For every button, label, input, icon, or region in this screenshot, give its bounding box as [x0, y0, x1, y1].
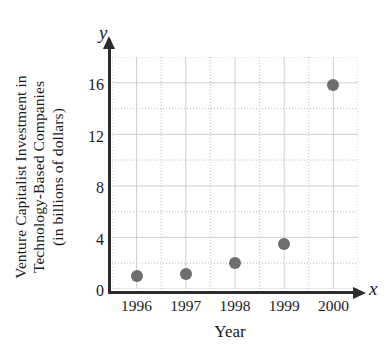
y-axis-title-line-1: Venture Capitalist Investment in — [12, 7, 30, 347]
y-tick-12: 12 — [74, 129, 104, 145]
data-point-1996 — [131, 270, 143, 282]
x-tick-1998: 1998 — [207, 298, 263, 314]
x-tick-1996: 1996 — [109, 298, 165, 314]
y-tick-8: 8 — [74, 180, 104, 196]
plot-area — [112, 57, 358, 289]
grid-lines — [112, 57, 358, 289]
x-axis-line — [108, 291, 356, 294]
x-axis-title: Year — [150, 322, 310, 342]
x-axis-variable-label: x — [369, 278, 377, 300]
data-point-1997 — [180, 268, 192, 280]
data-point-1998 — [229, 257, 241, 269]
y-tick-0: 0 — [74, 283, 104, 299]
x-tick-1999: 1999 — [256, 298, 312, 314]
x-tick-2000: 2000 — [305, 298, 361, 314]
data-point-2000 — [327, 79, 339, 91]
y-tick-16: 16 — [74, 77, 104, 93]
x-tick-1997: 1997 — [158, 298, 214, 314]
y-tick-4: 4 — [74, 232, 104, 248]
data-point-1999 — [278, 238, 290, 250]
x-axis-tick-labels: 1996 1997 1998 1999 2000 — [0, 298, 389, 322]
y-axis-title-line-2: Technology-Based Companies — [30, 7, 48, 347]
y-axis-title-line-3: (in billions of dollars) — [48, 7, 66, 347]
y-axis-line — [108, 46, 111, 294]
